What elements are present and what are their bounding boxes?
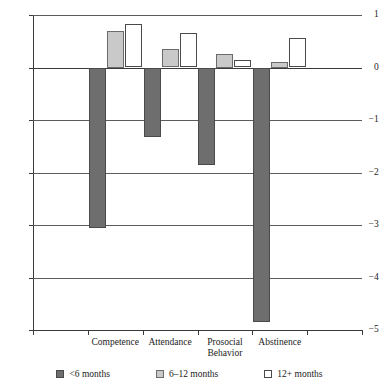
bar [162,49,179,68]
bar [234,60,251,67]
bar [125,24,142,68]
chart-legend: <6 months 6–12 months 12+ months [0,364,379,384]
bar [144,68,161,137]
legend-item-0: <6 months [56,369,109,379]
category-label: Abstinence [252,337,307,348]
bar [253,68,270,323]
legend-label: 12+ months [277,369,322,379]
bar [198,68,215,166]
category-label: Prosocial Behavior [198,337,253,359]
bar [289,38,306,68]
gridline--4 [33,278,362,279]
legend-swatch-icon [156,370,164,378]
category-label: Competence [88,337,143,348]
legend-swatch-icon [56,370,64,378]
bar [216,54,233,67]
bar [107,31,124,68]
gridline-1 [33,15,362,16]
plot-area [33,15,362,330]
category-tick [88,330,89,335]
legend-label: <6 months [69,369,109,379]
category-tick [252,330,253,335]
category-tick [198,330,199,335]
gridline--3 [33,225,362,226]
legend-item-1: 6–12 months [156,369,218,379]
category-label: Attendance [143,337,198,348]
category-tick [143,330,144,335]
category-tick [33,330,34,335]
legend-item-2: 12+ months [264,369,322,379]
category-tick [307,330,308,335]
legend-label: 6–12 months [169,369,218,379]
bar-chart: 10−1−2−3−4−5 CompetenceAttendanceProsoci… [0,0,379,386]
bar [180,33,197,68]
bar [271,62,288,67]
bar [89,68,106,228]
legend-swatch-icon [264,370,272,378]
category-axis: CompetenceAttendanceProsocial BehaviorAb… [33,330,362,364]
category-tick [362,330,363,335]
gridline--2 [33,173,362,174]
